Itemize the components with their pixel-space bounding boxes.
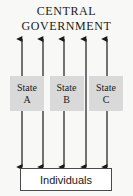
- state-box-b-letter: B: [63, 94, 70, 106]
- state-box-a: State A: [10, 76, 44, 111]
- state-box-row: State A State B State C: [10, 76, 123, 111]
- state-box-b: State B: [50, 76, 84, 111]
- individuals-box: Individuals: [20, 168, 112, 191]
- state-box-c: State C: [89, 76, 123, 111]
- state-box-a-letter: A: [23, 94, 30, 106]
- individuals-box-label: Individuals: [40, 174, 92, 186]
- state-box-a-label: State: [17, 82, 37, 94]
- state-box-c-letter: C: [103, 94, 110, 106]
- federal-structure-diagram: CENTRAL GOVERNMENT State A State B: [0, 0, 133, 196]
- state-box-b-label: State: [57, 82, 77, 94]
- state-box-c-label: State: [96, 82, 116, 94]
